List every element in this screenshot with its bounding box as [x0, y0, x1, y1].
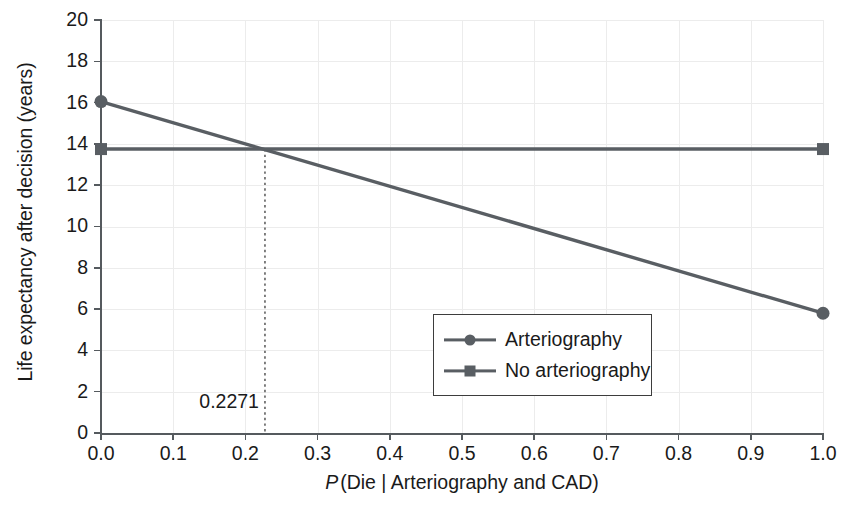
x-tick: [317, 433, 319, 440]
legend-item-no-arteriography[interactable]: No arteriography: [444, 355, 639, 386]
x-axis-title-rest: (Die | Arteriography and CAD): [340, 471, 599, 493]
data-point-circle: [95, 95, 108, 108]
x-tick-label: 0.6: [521, 444, 548, 464]
y-tick: 2: [94, 391, 101, 393]
y-tick-label: 14: [66, 134, 88, 154]
data-series-group: [95, 95, 830, 320]
x-tick: [533, 433, 535, 440]
y-tick-label: 2: [77, 382, 88, 402]
y-tick-label: 4: [77, 341, 88, 361]
x-tick: [606, 433, 608, 440]
y-tick: 10: [94, 226, 101, 228]
y-tick-label: 12: [66, 175, 88, 195]
x-tick: [245, 433, 247, 440]
y-tick: 12: [94, 184, 101, 186]
x-tick: [100, 433, 102, 440]
y-tick-label: 6: [77, 299, 88, 319]
y-tick-label: 10: [66, 217, 88, 237]
x-tick-label: 0.7: [593, 444, 620, 464]
x-tick: [172, 433, 174, 440]
x-tick: [461, 433, 463, 440]
x-tick: [822, 433, 824, 440]
x-tick: [678, 433, 680, 440]
data-point-circle: [817, 307, 830, 320]
x-tick-label: 0.2: [232, 444, 259, 464]
gridline-vertical: [823, 20, 824, 433]
x-tick-label: 0.8: [665, 444, 692, 464]
x-tick-label: 0.0: [87, 444, 114, 464]
x-tick-label: 0.5: [448, 444, 475, 464]
y-tick: 4: [94, 350, 101, 352]
y-tick: 20: [94, 19, 101, 21]
threshold-value-label: 0.2271: [199, 392, 259, 412]
y-tick-label: 20: [66, 10, 88, 30]
chart-legend: Arteriography No arteriography: [433, 314, 652, 396]
data-point-square: [817, 143, 829, 155]
x-tick-label: 0.9: [737, 444, 764, 464]
legend-item-arteriography[interactable]: Arteriography: [444, 324, 639, 355]
y-tick-label: 18: [66, 52, 88, 72]
x-tick-label: 0.3: [304, 444, 331, 464]
y-tick-label: 0: [77, 423, 88, 443]
x-tick-label: 0.4: [376, 444, 403, 464]
legend-label-arteriography: Arteriography: [505, 330, 622, 350]
y-tick-label: 16: [66, 93, 88, 113]
x-tick: [750, 433, 752, 440]
legend-marker-circle-icon: [444, 330, 496, 350]
x-axis-title-italic-prefix: P: [325, 471, 340, 493]
legend-marker-square-icon: [444, 361, 496, 381]
y-tick: 18: [94, 61, 101, 63]
y-tick-label: 8: [77, 258, 88, 278]
x-axis-title: P(Die | Arteriography and CAD): [101, 471, 823, 494]
data-point-square: [95, 143, 107, 155]
x-tick-label: 1.0: [809, 444, 836, 464]
x-tick-label: 0.1: [160, 444, 187, 464]
chart-figure: Life expectancy after decision (years) P…: [0, 0, 841, 513]
y-tick: 6: [94, 308, 101, 310]
legend-label-no-arteriography: No arteriography: [505, 361, 650, 381]
series-line: [101, 102, 823, 314]
x-tick: [389, 433, 391, 440]
y-tick: 8: [94, 267, 101, 269]
y-axis-title: Life expectancy after decision (years): [8, 0, 42, 452]
